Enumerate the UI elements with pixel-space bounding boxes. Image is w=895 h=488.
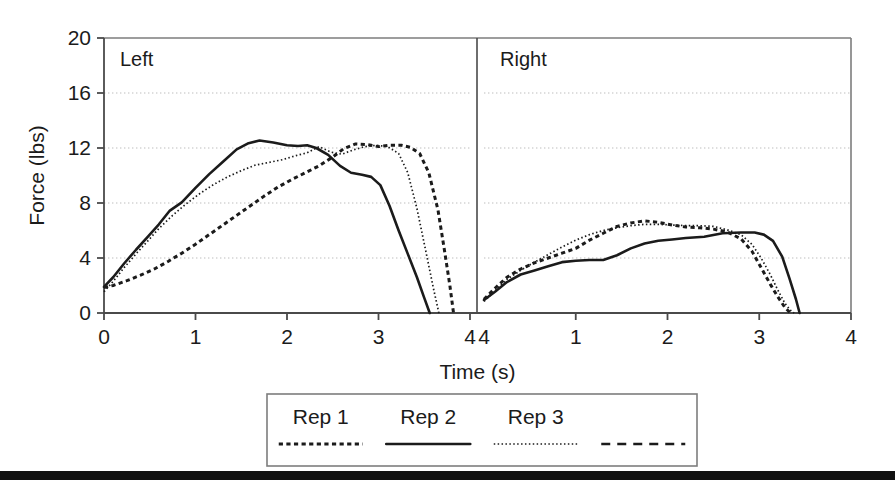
figure-root: 048121620Force (lbs)Left01234Right41234T… bbox=[0, 0, 895, 488]
panel-label-left: Left bbox=[120, 48, 154, 70]
y-axis: 048121620Force (lbs) bbox=[25, 26, 104, 324]
x-tick-label-left-4: 4 bbox=[464, 325, 476, 348]
x-tick-label-right-3: 3 bbox=[753, 325, 765, 348]
x-tick-label-right-2: 2 bbox=[662, 325, 674, 348]
series-right-rep-2 bbox=[484, 233, 800, 313]
legend-label-1: Rep 1 bbox=[293, 405, 349, 428]
legend: Rep 1Rep 2Rep 3 bbox=[267, 394, 697, 466]
series-right-rep-1 bbox=[484, 221, 790, 313]
x-tick-label-right-4: 4 bbox=[845, 325, 857, 348]
panel-left: Left01234 bbox=[98, 48, 476, 348]
x-tick-label-right-1: 1 bbox=[570, 325, 582, 348]
x-axis-title: Time (s) bbox=[439, 360, 515, 383]
x-tick-label-left-0: 0 bbox=[98, 325, 110, 348]
y-tick-label-16: 16 bbox=[68, 81, 91, 104]
y-tick-label-20: 20 bbox=[68, 26, 91, 49]
plot-frame bbox=[104, 38, 851, 313]
x-tick-label-left-3: 3 bbox=[373, 325, 385, 348]
y-axis-title: Force (lbs) bbox=[25, 125, 48, 225]
y-tick-label-8: 8 bbox=[79, 191, 91, 214]
x-tick-label-left-1: 1 bbox=[190, 325, 202, 348]
force-time-line-chart: 048121620Force (lbs)Left01234Right41234T… bbox=[0, 0, 895, 488]
y-tick-label-12: 12 bbox=[68, 136, 91, 159]
series-right-rep-3 bbox=[484, 224, 794, 313]
legend-label-3: Rep 3 bbox=[508, 405, 564, 428]
legend-label-2: Rep 2 bbox=[400, 405, 456, 428]
scan-artifact-bar bbox=[0, 471, 895, 480]
panel-label-right: Right bbox=[500, 48, 547, 70]
y-tick-label-0: 0 bbox=[79, 301, 91, 324]
y-tick-label-4: 4 bbox=[79, 246, 91, 269]
x-tick-label-right-0: 4 bbox=[478, 325, 490, 348]
series-left-rep-2 bbox=[104, 140, 430, 313]
x-tick-label-left-2: 2 bbox=[281, 325, 293, 348]
